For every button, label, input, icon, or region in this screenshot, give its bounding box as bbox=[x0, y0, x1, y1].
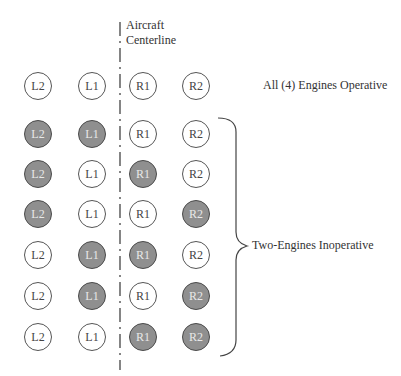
all-operative-label: All (4) Engines Operative bbox=[263, 78, 387, 93]
diagram-lines bbox=[0, 0, 401, 376]
engine-r2-operative: R2 bbox=[182, 160, 210, 188]
engine-l1-operative: L1 bbox=[78, 160, 106, 188]
engine-l1-operative: L1 bbox=[78, 200, 106, 228]
engine-l2-operative: L2 bbox=[24, 72, 52, 100]
centerline-label-line1: Aircraft bbox=[126, 18, 176, 33]
engine-r2-inoperative: R2 bbox=[182, 323, 210, 351]
engine-l2-operative: L2 bbox=[24, 241, 52, 269]
engine-r2-operative: R2 bbox=[182, 120, 210, 148]
engine-r2-operative: R2 bbox=[182, 241, 210, 269]
engine-r1-operative: R1 bbox=[129, 72, 157, 100]
engine-l1-operative: L1 bbox=[78, 72, 106, 100]
engine-r1-operative: R1 bbox=[129, 120, 157, 148]
engine-l2-inoperative: L2 bbox=[24, 200, 52, 228]
engine-l1-inoperative: L1 bbox=[78, 241, 106, 269]
centerline-label-line2: Centerline bbox=[126, 33, 176, 48]
engine-r2-inoperative: R2 bbox=[182, 282, 210, 310]
engine-l2-inoperative: L2 bbox=[24, 160, 52, 188]
engine-r2-inoperative: R2 bbox=[182, 200, 210, 228]
engine-r1-inoperative: R1 bbox=[129, 241, 157, 269]
engine-r1-inoperative: R1 bbox=[129, 323, 157, 351]
engine-l2-operative: L2 bbox=[24, 282, 52, 310]
engine-l2-inoperative: L2 bbox=[24, 120, 52, 148]
engine-r1-inoperative: R1 bbox=[129, 160, 157, 188]
engine-l1-operative: L1 bbox=[78, 323, 106, 351]
engine-l1-inoperative: L1 bbox=[78, 282, 106, 310]
two-inoperative-label: Two-Engines Inoperative bbox=[252, 238, 373, 253]
centerline-label: Aircraft Centerline bbox=[126, 18, 176, 48]
engine-l2-operative: L2 bbox=[24, 323, 52, 351]
engine-r1-operative: R1 bbox=[129, 200, 157, 228]
brace-icon bbox=[218, 118, 247, 356]
engine-r1-operative: R1 bbox=[129, 282, 157, 310]
engine-r2-operative: R2 bbox=[182, 72, 210, 100]
engine-l1-inoperative: L1 bbox=[78, 120, 106, 148]
